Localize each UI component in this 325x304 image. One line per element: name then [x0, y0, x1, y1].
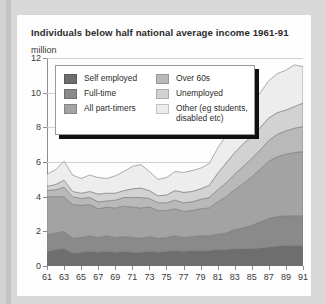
- y-axis-tick-label: 6: [36, 157, 41, 167]
- legend-item: Unemployed: [156, 88, 252, 99]
- x-axis-tick-label: 65: [76, 272, 86, 282]
- legend-item-label: Full-time: [84, 88, 116, 98]
- x-axis-tick-label: 91: [298, 272, 308, 282]
- x-axis-tick-label: 81: [213, 272, 223, 282]
- legend-item: Over 60s: [156, 73, 252, 84]
- y-axis-tick-label: 0: [36, 261, 41, 271]
- chart-title: Individuals below half national average …: [31, 27, 303, 38]
- x-axis-tick: [64, 266, 65, 270]
- x-axis-tick: [166, 266, 167, 270]
- x-axis-tick-label: 77: [179, 272, 189, 282]
- x-axis-tick-label: 71: [127, 272, 137, 282]
- legend-swatch-icon: [64, 104, 77, 114]
- legend-item: Self employed: [64, 73, 154, 84]
- y-axis-tick: [43, 197, 47, 198]
- x-axis-tick: [81, 266, 82, 270]
- x-axis-tick-label: 67: [93, 272, 103, 282]
- legend-column-right: Over 60sUnemployedOther (eg students, di…: [156, 73, 252, 127]
- y-axis-tick: [43, 231, 47, 232]
- legend-swatch-icon: [156, 89, 169, 99]
- x-axis-tick-label: 61: [42, 272, 52, 282]
- x-axis-tick: [235, 266, 236, 270]
- legend-swatch-icon: [64, 89, 77, 99]
- x-axis-tick: [132, 266, 133, 270]
- y-axis-tick: [43, 58, 47, 59]
- x-axis-tick: [98, 266, 99, 270]
- x-axis-tick: [201, 266, 202, 270]
- x-axis-tick: [252, 266, 253, 270]
- x-axis-tick-label: 63: [59, 272, 69, 282]
- x-axis-tick-label: 85: [247, 272, 257, 282]
- x-axis-tick-label: 79: [196, 272, 206, 282]
- x-axis-tick-label: 75: [161, 272, 171, 282]
- legend-column-left: Self employedFull-timeAll part-timers: [64, 73, 154, 118]
- legend-item: Other (eg students, disabled etc): [156, 103, 252, 123]
- legend-item-label: Unemployed: [176, 88, 223, 98]
- x-axis-tick: [218, 266, 219, 270]
- y-axis-tick: [43, 127, 47, 128]
- x-axis-tick: [269, 266, 270, 270]
- legend-item: All part-timers: [64, 103, 154, 114]
- x-axis-tick-label: 69: [110, 272, 120, 282]
- legend-swatch-icon: [156, 74, 169, 84]
- y-axis-tick: [43, 162, 47, 163]
- y-axis-tick-label: 2: [36, 226, 41, 236]
- x-axis-tick: [303, 266, 304, 270]
- x-axis-tick: [47, 266, 48, 270]
- x-axis-tick-label: 87: [264, 272, 274, 282]
- chart-card: Individuals below half national average …: [16, 14, 312, 297]
- legend-swatch-icon: [156, 104, 169, 114]
- y-axis-tick: [43, 93, 47, 94]
- page-background: Individuals below half national average …: [0, 0, 325, 304]
- legend-item-label: Self employed: [84, 73, 137, 83]
- y-axis-tick-label: 4: [36, 192, 41, 202]
- x-axis-tick: [286, 266, 287, 270]
- x-axis-tick-label: 89: [281, 272, 291, 282]
- y-axis-tick-label: 12: [31, 53, 41, 63]
- legend-item: Full-time: [64, 88, 154, 99]
- legend-item-label: Over 60s: [176, 73, 210, 83]
- chart-legend: Self employedFull-timeAll part-timers Ov…: [55, 65, 255, 135]
- legend-item-label: Other (eg students, disabled etc): [176, 103, 252, 123]
- legend-swatch-icon: [64, 74, 77, 84]
- x-axis-tick-label: 83: [230, 272, 240, 282]
- x-axis-tick: [115, 266, 116, 270]
- y-axis-tick-label: 10: [31, 88, 41, 98]
- x-axis-tick: [184, 266, 185, 270]
- y-axis-tick-label: 8: [36, 122, 41, 132]
- legend-item-label: All part-timers: [84, 103, 136, 113]
- x-axis-tick: [149, 266, 150, 270]
- x-axis-tick-label: 73: [144, 272, 154, 282]
